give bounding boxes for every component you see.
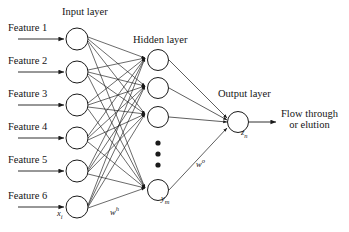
output-layer-label: Output layer <box>218 88 271 99</box>
input-node-4 <box>66 127 88 149</box>
hidden-node-symbol: ym <box>161 194 169 206</box>
output-result-line-2: or elution <box>281 119 338 130</box>
feature-label-3: Feature 3 <box>8 88 47 99</box>
ellipsis-dot-3 <box>155 162 160 167</box>
hidden-weight-sup: h <box>116 205 119 212</box>
input-node-5 <box>66 160 88 182</box>
hidden-node-3 <box>148 107 169 128</box>
hidden-layer-label: Hidden layer <box>133 34 188 45</box>
feature-label-6: Feature 6 <box>8 190 47 201</box>
output-result-text: Flow through or elution <box>281 108 338 130</box>
input-layer-label: Input layer <box>62 6 108 17</box>
hidden-layer-ellipsis <box>155 140 160 167</box>
ellipsis-dot-1 <box>155 140 160 145</box>
output-node-symbol-sub: n <box>244 132 247 139</box>
input-node-6 <box>66 196 88 218</box>
input-node-2 <box>66 61 88 83</box>
output-weight-sup: o <box>202 157 205 164</box>
feature-label-4: Feature 4 <box>8 121 47 132</box>
hidden-node-1 <box>148 50 169 71</box>
hidden-layer-nodes <box>148 50 169 201</box>
output-result-line-1: Flow through <box>281 108 338 119</box>
input-node-symbol: xi <box>57 209 63 221</box>
input-layer-nodes <box>66 28 88 218</box>
hidden-node-2 <box>148 78 169 99</box>
hidden-node-symbol-sub: m <box>165 198 170 205</box>
input-to-hidden-edges <box>88 37 145 208</box>
output-weight-symbol: wo <box>196 158 205 169</box>
output-node-symbol: zn <box>241 128 248 140</box>
neural-network-diagram: Input layer Hidden layer Output layer Fe… <box>0 0 349 232</box>
input-node-symbol-sub: i <box>61 213 63 220</box>
hidden-weight-symbol: wh <box>110 206 119 217</box>
hidden-to-output-edges <box>169 60 227 190</box>
feature-label-2: Feature 2 <box>8 55 47 66</box>
input-node-1 <box>66 28 88 50</box>
ellipsis-dot-2 <box>155 151 160 156</box>
input-node-3 <box>66 94 88 116</box>
feature-label-1: Feature 1 <box>8 22 47 33</box>
feature-label-5: Feature 5 <box>8 154 47 165</box>
